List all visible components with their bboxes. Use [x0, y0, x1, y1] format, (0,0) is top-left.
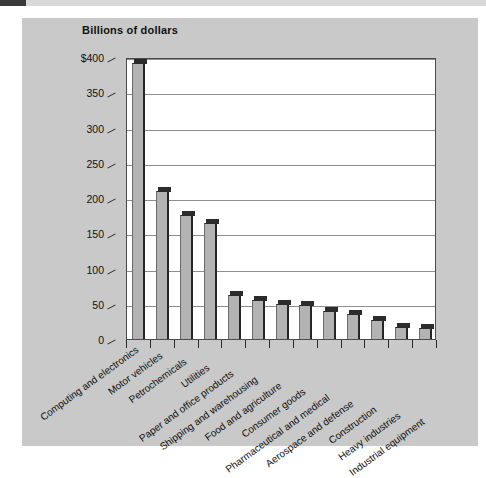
- chart-figure-panel: Billions of dollars $4003503002502001501…: [22, 18, 478, 446]
- bar[interactable]: [371, 57, 384, 339]
- page-top-strip-marker: [0, 0, 26, 6]
- y-axis-tick-label: 200: [86, 193, 104, 205]
- bar-top-cap: [206, 219, 219, 224]
- bar-top-cap: [158, 187, 171, 192]
- y-axis-tick-label: 150: [86, 228, 104, 240]
- y-axis-tick-mark: [107, 128, 115, 133]
- page-top-strip: [0, 0, 486, 6]
- y-axis-tick-label: 100: [86, 264, 104, 276]
- y-axis-tick-label: 350: [86, 87, 104, 99]
- bar[interactable]: [419, 57, 432, 339]
- bar[interactable]: [204, 57, 217, 339]
- bar-body: [132, 63, 145, 339]
- y-axis-tick-mark: [107, 57, 115, 62]
- bar[interactable]: [347, 57, 360, 339]
- y-axis-tick-mark: [107, 198, 115, 203]
- y-axis-tick-mark: [107, 163, 115, 168]
- plot-area: [126, 58, 436, 340]
- y-axis-tick-mark: [107, 269, 115, 274]
- bar[interactable]: [299, 57, 312, 339]
- bar[interactable]: [156, 57, 169, 339]
- bar[interactable]: [276, 57, 289, 339]
- bar[interactable]: [180, 57, 193, 339]
- bar[interactable]: [132, 57, 145, 339]
- y-axis-tick-mark: [107, 304, 115, 309]
- bar-top-cap: [182, 211, 195, 216]
- bar-series: [127, 59, 435, 339]
- y-axis-tick-label: 250: [86, 158, 104, 170]
- y-axis-tick-label: 300: [86, 123, 104, 135]
- bar[interactable]: [395, 57, 408, 339]
- x-axis-labels: Computing and electronicsMotor vehiclesP…: [22, 318, 478, 446]
- bar-top-cap: [254, 296, 267, 301]
- y-axis-tick-mark: [107, 234, 115, 239]
- bar-body: [156, 191, 169, 339]
- bar-top-cap: [349, 310, 362, 315]
- y-axis-tick-mark: [107, 93, 115, 98]
- bar[interactable]: [323, 57, 336, 339]
- bar[interactable]: [228, 57, 241, 339]
- bar-top-cap: [134, 59, 147, 64]
- bar[interactable]: [252, 57, 265, 339]
- y-axis-tick-label: 50: [92, 299, 104, 311]
- bar-top-cap: [230, 291, 243, 296]
- bar-top-cap: [278, 300, 291, 305]
- bar-top-cap: [301, 301, 314, 306]
- bar-top-cap: [325, 307, 338, 312]
- y-axis-tick-label: $400: [81, 52, 104, 64]
